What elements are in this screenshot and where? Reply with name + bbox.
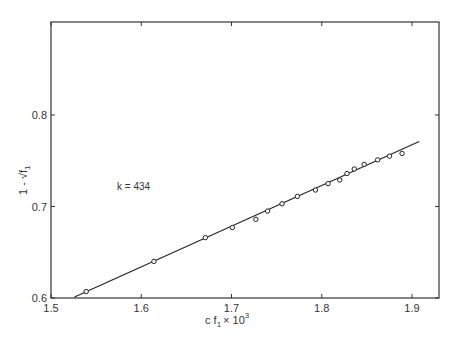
data-point — [203, 235, 207, 239]
x-label-sup: 3 — [245, 311, 250, 320]
x-axis-label: c f1× 103 — [205, 311, 250, 329]
data-point — [313, 188, 317, 192]
data-point — [265, 209, 269, 213]
data-point — [376, 158, 380, 162]
data-point — [280, 202, 284, 206]
y-label-sub: 1 — [23, 165, 32, 170]
x-label-times: × 10 — [223, 314, 245, 326]
data-point — [338, 178, 342, 182]
data-point — [387, 154, 391, 158]
data-point — [295, 194, 299, 198]
data-point — [400, 151, 404, 155]
x-tick-label: 1.6 — [134, 302, 149, 314]
data-point — [84, 289, 88, 293]
data-point — [254, 217, 258, 221]
x-tick-label: 1.9 — [404, 302, 419, 314]
axis-ticks: 1.51.61.71.81.90.60.70.8 — [32, 22, 439, 314]
plot-frame — [51, 22, 439, 298]
y-tick-label: 0.8 — [32, 109, 47, 121]
data-point — [345, 171, 349, 175]
plot-border — [51, 22, 439, 298]
regression-line — [74, 142, 419, 298]
data-point — [152, 259, 156, 263]
data-point — [230, 225, 234, 229]
data-points — [84, 151, 404, 294]
data-point — [362, 162, 366, 166]
x-tick-label: 1.7 — [224, 302, 239, 314]
chart: 1.51.61.71.81.90.60.70.8 k = 434 c f1× 1… — [0, 0, 462, 343]
fit-line — [74, 142, 419, 298]
k-annotation: k = 434 — [117, 181, 151, 192]
y-axis-label: 1 - √f1 — [17, 165, 32, 195]
y-tick-label: 0.7 — [32, 201, 47, 213]
data-point — [352, 167, 356, 171]
data-point — [326, 181, 330, 185]
y-tick-label: 0.6 — [32, 292, 47, 304]
x-label-sub: 1 — [217, 320, 222, 329]
x-tick-label: 1.8 — [314, 302, 329, 314]
y-label-main: 1 - √f — [17, 169, 29, 195]
